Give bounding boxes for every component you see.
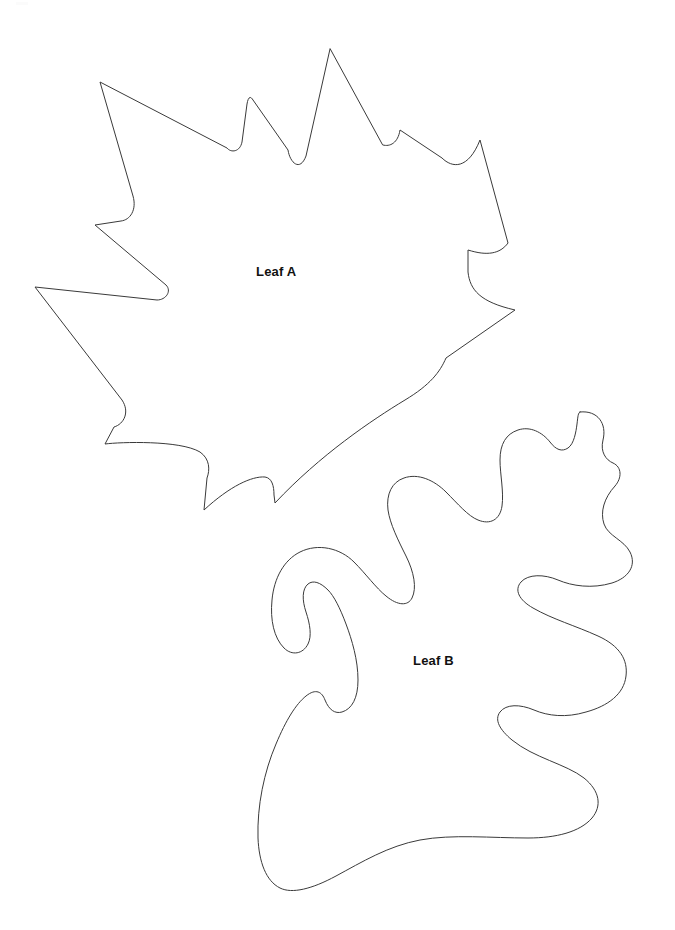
drawing-canvas: Leaf A Leaf B xyxy=(0,0,675,930)
leaf-outlines-svg xyxy=(0,0,675,930)
leaf-b-outline xyxy=(258,412,632,891)
leaf-b-label: Leaf B xyxy=(413,653,454,668)
leaf-a-outline xyxy=(35,49,515,510)
leaf-a-label: Leaf A xyxy=(256,264,296,279)
